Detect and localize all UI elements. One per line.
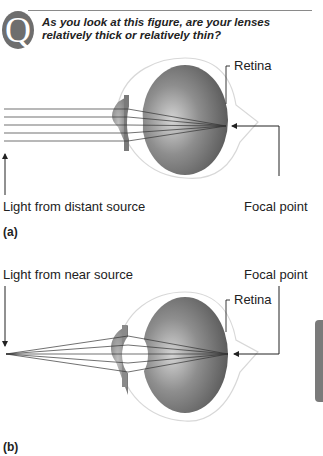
source-label-b: Light from near source	[3, 267, 133, 282]
retina-label-b: Retina	[234, 292, 272, 307]
source-label-a: Light from distant source	[3, 199, 145, 214]
page-side-tab	[315, 320, 323, 402]
focal-label-a: Focal point	[244, 199, 308, 214]
panel-label-b: (b)	[3, 440, 18, 454]
panel-label-a: (a)	[3, 225, 18, 239]
focal-label-b: Focal point	[244, 267, 308, 282]
eye-diagram-a	[4, 58, 279, 195]
retina-label-a: Retina	[234, 58, 272, 73]
